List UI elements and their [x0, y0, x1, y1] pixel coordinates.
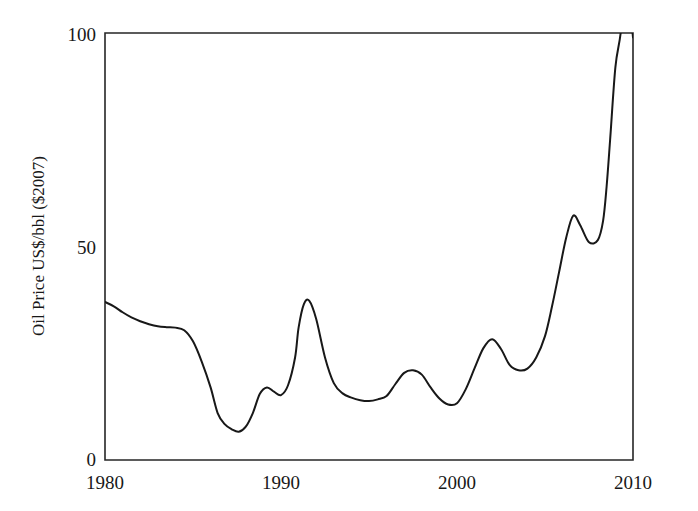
oil-price-line-chart: Oil Price US$/bbl ($2007) 100 50 0 1980 … [0, 0, 698, 511]
oil-price-figure: Oil Price US$/bbl ($2007) 100 50 0 1980 … [0, 0, 698, 511]
axis-frame [105, 33, 633, 460]
x-tick-label-1980: 1980 [86, 472, 124, 493]
oil-price-series-line [105, 0, 633, 432]
y-tick-label-0: 0 [87, 449, 97, 470]
y-tick-label-50: 50 [77, 237, 96, 258]
x-tick-label-2000: 2000 [438, 472, 476, 493]
y-axis-title: Oil Price US$/bbl ($2007) [29, 156, 48, 336]
x-tick-label-1990: 1990 [262, 472, 300, 493]
y-tick-label-100: 100 [68, 24, 97, 45]
x-tick-label-2010: 2010 [614, 472, 652, 493]
